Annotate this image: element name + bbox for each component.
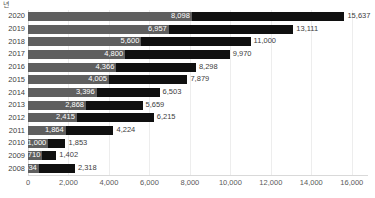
- bar-segment-1-value-label: 534: [24, 163, 39, 173]
- bar-segment-2: [169, 25, 294, 34]
- bar-segment-1-value-label: 4,366: [96, 62, 117, 72]
- bar-total-label: 6,503: [160, 87, 182, 97]
- category-label-2011: 2011: [9, 126, 25, 136]
- bar-row: 2,4156,215: [28, 113, 368, 122]
- bar-segment-1-value-label: 8,098: [171, 11, 192, 21]
- bar-segment-2: [42, 151, 56, 160]
- bar-segment-1-value-label: 2,868: [65, 100, 86, 110]
- category-label-2020: 2020: [8, 11, 25, 21]
- bar-total-label: 9,970: [230, 49, 252, 59]
- bar-total-label: 1,853: [66, 138, 88, 148]
- bar-segment-1: [28, 12, 192, 21]
- bar-row: 5342,318: [28, 164, 368, 173]
- bar-total-label: 6,215: [154, 112, 176, 122]
- bar-segment-1-value-label: 2,415: [56, 112, 77, 122]
- bar-total-label: 5,659: [143, 100, 165, 110]
- tick-label-0: 0: [26, 178, 30, 188]
- bar-segment-1-value-label: 4,005: [88, 74, 109, 84]
- bar-segment-1-value-label: 1,000: [27, 138, 48, 148]
- category-axis-labels: 2020201920182017201620152014201320122011…: [0, 10, 25, 175]
- bar-row: 6,95713,111: [28, 25, 368, 34]
- category-label-2014: 2014: [8, 88, 25, 98]
- bar-row: 5,60011,000: [28, 37, 368, 46]
- plot-area: 8,09815,6376,95713,1115,60011,0004,8009,…: [28, 10, 368, 175]
- bar-total-label: 11,000: [251, 36, 276, 46]
- bar-segment-1-value-label: 3,396: [76, 87, 97, 97]
- value-axis-line: [28, 175, 368, 176]
- bar-segment-1-value-label: 5,600: [121, 36, 142, 46]
- tick-label-8000: 8,000: [181, 178, 200, 188]
- bar-row: 4,3668,298: [28, 63, 368, 72]
- bar-segment-2: [66, 126, 114, 135]
- bar-total-label: 7,879: [187, 74, 209, 84]
- bar-segment-2: [39, 164, 75, 173]
- tick-label-16000: 16,000: [340, 178, 363, 188]
- bar-row: 7101,402: [28, 151, 368, 160]
- tick-label-12000: 12,000: [259, 178, 282, 188]
- bar-segment-2: [97, 88, 160, 97]
- category-axis-title: 년: [3, 0, 9, 9]
- category-label-2010: 2010: [8, 138, 25, 148]
- category-label-2019: 2019: [8, 24, 25, 34]
- bar-chart: 년 20202019201820172016201520142013201220…: [0, 0, 375, 198]
- category-label-2015: 2015: [8, 75, 25, 85]
- bar-total-label: 4,224: [113, 125, 135, 135]
- bar-segment-2: [125, 50, 230, 59]
- bar-total-label: 2,318: [75, 163, 97, 173]
- bar-segment-2: [77, 113, 154, 122]
- bar-segment-2: [48, 139, 65, 148]
- bar-segment-2: [192, 12, 345, 21]
- category-label-2017: 2017: [8, 49, 25, 59]
- bar-row: 4,8009,970: [28, 50, 368, 59]
- category-label-2008: 2008: [8, 164, 25, 174]
- bar-segment-1-value-label: 6,957: [148, 24, 169, 34]
- tick-label-2000: 2,000: [59, 178, 78, 188]
- bar-row: 8,09815,637: [28, 12, 368, 21]
- bar-row: 3,3966,503: [28, 88, 368, 97]
- bar-segment-1-value-label: 710: [28, 150, 43, 160]
- tick-label-10000: 10,000: [219, 178, 242, 188]
- category-label-2012: 2012: [8, 113, 25, 123]
- bar-row: 1,8644,224: [28, 126, 368, 135]
- bar-total-label: 1,402: [56, 150, 78, 160]
- tick-label-14000: 14,000: [300, 178, 323, 188]
- bar-rows: 8,09815,6376,95713,1115,60011,0004,8009,…: [28, 10, 368, 175]
- bar-row: 4,0057,879: [28, 75, 368, 84]
- bar-total-label: 8,298: [196, 62, 218, 72]
- bar-total-label: 15,637: [344, 11, 370, 21]
- bar-segment-1-value-label: 1,864: [45, 125, 66, 135]
- tick-label-6000: 6,000: [140, 178, 159, 188]
- category-label-2009: 2009: [8, 151, 25, 161]
- category-label-2013: 2013: [8, 100, 25, 110]
- category-label-2016: 2016: [8, 62, 25, 72]
- value-axis-tick-labels: 02,0004,0006,0008,00010,00012,00014,0001…: [28, 177, 368, 191]
- bar-row: 1,0001,853: [28, 139, 368, 148]
- bar-segment-2: [141, 37, 250, 46]
- bar-segment-2: [86, 101, 142, 110]
- bar-segment-1-value-label: 4,800: [104, 49, 125, 59]
- bar-segment-2: [116, 63, 196, 72]
- category-label-2018: 2018: [8, 37, 25, 47]
- tick-label-4000: 4,000: [100, 178, 119, 188]
- bar-total-label: 13,111: [293, 24, 318, 34]
- bar-row: 2,8685,659: [28, 101, 368, 110]
- bar-segment-2: [109, 75, 187, 84]
